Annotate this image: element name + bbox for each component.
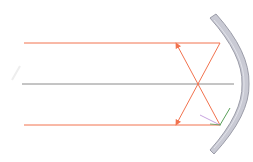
concave-mirror-diagram — [0, 0, 253, 162]
faint-mark — [12, 66, 20, 80]
reflected-ray-bottom — [177, 45, 220, 125]
reflected-ray-top — [177, 43, 220, 123]
mirror-green-edge — [220, 108, 230, 125]
focal-point — [197, 83, 199, 85]
